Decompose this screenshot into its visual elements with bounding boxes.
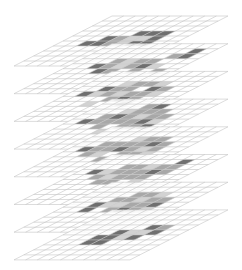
stacked-grid-diagram — [0, 0, 242, 270]
layer-stack-canvas — [0, 0, 242, 270]
